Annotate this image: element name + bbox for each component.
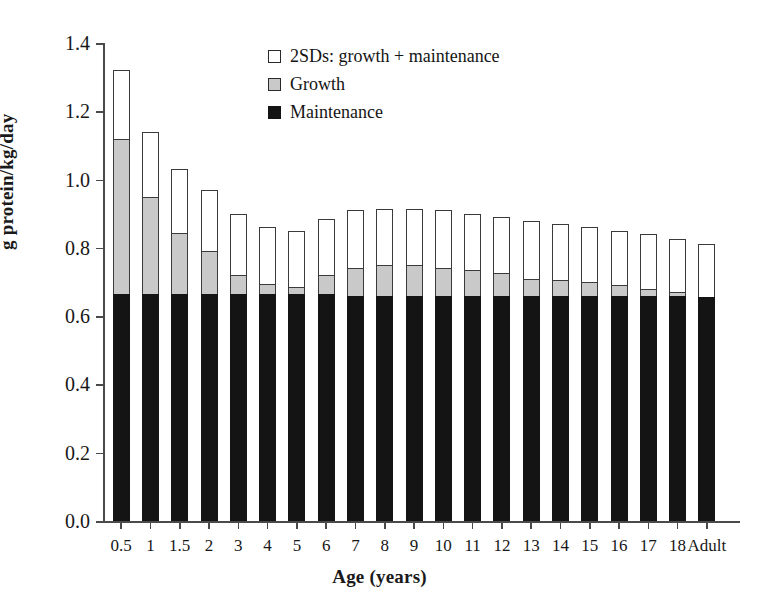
legend-label-maintenance: Maintenance: [290, 100, 383, 125]
x-tick-mark: [267, 521, 269, 529]
bar-9[interactable]: [406, 209, 423, 521]
x-tick-label: 7: [351, 535, 360, 557]
bar-18[interactable]: [669, 239, 686, 521]
x-tick-mark: [296, 521, 298, 529]
x-tick-label: 2: [205, 535, 214, 557]
y-tick-label: 0.0: [30, 508, 90, 534]
x-tick-label: 6: [322, 535, 331, 557]
chart-legend: 2SDs: growth + maintenance Growth Mainte…: [268, 44, 500, 128]
x-tick-mark: [355, 521, 357, 529]
bar-segment-maintenance: [230, 294, 247, 521]
y-axis-line: [103, 43, 105, 521]
legend-item-maintenance: Maintenance: [268, 100, 500, 125]
legend-item-two-sds: 2SDs: growth + maintenance: [268, 44, 500, 69]
bar-segment-maintenance: [523, 296, 540, 521]
x-tick-mark: [648, 521, 650, 529]
y-tick-label: 0.2: [30, 440, 90, 466]
x-tick-label: 9: [410, 535, 419, 557]
x-tick-mark: [208, 521, 210, 529]
bar-segment-maintenance: [376, 296, 393, 521]
bar-segment-maintenance: [171, 294, 188, 521]
y-tick-mark: [96, 180, 103, 182]
bar-segment-maintenance: [406, 296, 423, 521]
bar-1[interactable]: [142, 132, 159, 521]
bar-13[interactable]: [523, 221, 540, 521]
bar-15[interactable]: [581, 227, 598, 521]
bar-3[interactable]: [230, 214, 247, 521]
bar-segment-maintenance: [640, 296, 657, 521]
bar-segment-maintenance: [552, 296, 569, 521]
x-tick-label: 4: [263, 535, 272, 557]
y-tick-mark: [96, 316, 103, 318]
bar-16[interactable]: [611, 231, 628, 521]
x-tick-label: 8: [380, 535, 389, 557]
y-tick-mark: [96, 111, 103, 113]
bar-segment-maintenance: [318, 294, 335, 521]
y-tick-mark: [96, 521, 103, 523]
bar-segment-maintenance: [259, 294, 276, 521]
bar-segment-maintenance: [581, 296, 598, 521]
x-tick-mark: [325, 521, 327, 529]
bar-segment-maintenance: [435, 296, 452, 521]
bar-5[interactable]: [288, 231, 305, 521]
bar-0.5[interactable]: [113, 70, 130, 521]
bar-6[interactable]: [318, 219, 335, 521]
bar-segment-maintenance: [464, 296, 481, 521]
x-tick-mark: [618, 521, 620, 529]
bar-1.5[interactable]: [171, 169, 188, 521]
x-tick-mark: [501, 521, 503, 529]
bar-segment-maintenance: [288, 294, 305, 521]
bar-4[interactable]: [259, 227, 276, 521]
bar-segment-maintenance: [493, 296, 510, 521]
y-tick-label: 1.4: [30, 30, 90, 56]
bar-11[interactable]: [464, 214, 481, 521]
x-tick-mark: [530, 521, 532, 529]
y-tick-label: 0.6: [30, 303, 90, 329]
bar-2[interactable]: [201, 190, 218, 521]
x-tick-mark: [560, 521, 562, 529]
x-tick-label: 1: [146, 535, 155, 557]
x-tick-label: 13: [523, 535, 540, 557]
x-tick-mark: [472, 521, 474, 529]
y-tick-label: 0.4: [30, 371, 90, 397]
x-tick-label: 18: [669, 535, 686, 557]
y-axis-title: g protein/kg/day: [0, 114, 18, 250]
bar-Adult[interactable]: [698, 244, 715, 521]
x-tick-label: 0.5: [111, 535, 132, 557]
bar-segment-maintenance: [611, 296, 628, 521]
x-tick-label: 14: [552, 535, 569, 557]
x-tick-label: 5: [293, 535, 302, 557]
x-tick-label: 11: [464, 535, 480, 557]
y-tick-mark: [96, 384, 103, 386]
y-tick-label: 0.8: [30, 235, 90, 261]
x-tick-mark: [706, 521, 708, 529]
x-tick-mark: [413, 521, 415, 529]
x-tick-label: 12: [493, 535, 510, 557]
bar-17[interactable]: [640, 234, 657, 521]
x-tick-mark: [677, 521, 679, 529]
bar-12[interactable]: [493, 217, 510, 521]
y-tick-label: 1.2: [30, 98, 90, 124]
y-tick-mark: [96, 43, 103, 45]
bar-segment-maintenance: [347, 296, 364, 521]
y-tick-mark: [96, 248, 103, 250]
x-tick-mark: [120, 521, 122, 529]
legend-swatch-icon-maintenance: [268, 106, 281, 119]
bar-segment-maintenance: [698, 297, 715, 521]
legend-swatch-icon-growth: [268, 78, 281, 91]
legend-item-growth: Growth: [268, 72, 500, 97]
x-tick-mark: [238, 521, 240, 529]
x-tick-label: 3: [234, 535, 243, 557]
x-tick-label: 17: [640, 535, 657, 557]
bar-10[interactable]: [435, 210, 452, 521]
bar-segment-maintenance: [669, 296, 686, 521]
x-tick-mark: [179, 521, 181, 529]
bar-7[interactable]: [347, 210, 364, 521]
x-tick-mark: [384, 521, 386, 529]
x-tick-mark: [150, 521, 152, 529]
bar-8[interactable]: [376, 209, 393, 521]
x-axis-title: Age (years): [0, 566, 759, 588]
x-tick-label: 15: [581, 535, 598, 557]
bar-14[interactable]: [552, 224, 569, 521]
x-tick-mark: [589, 521, 591, 529]
